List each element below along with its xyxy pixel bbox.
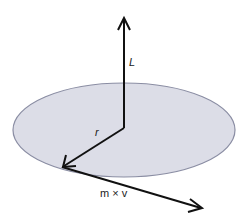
position-label: r [95, 127, 99, 138]
angular-momentum-diagram: L r m × v [0, 0, 247, 221]
angular-momentum-label: L [129, 57, 135, 68]
momentum-label: m × v [100, 188, 127, 199]
